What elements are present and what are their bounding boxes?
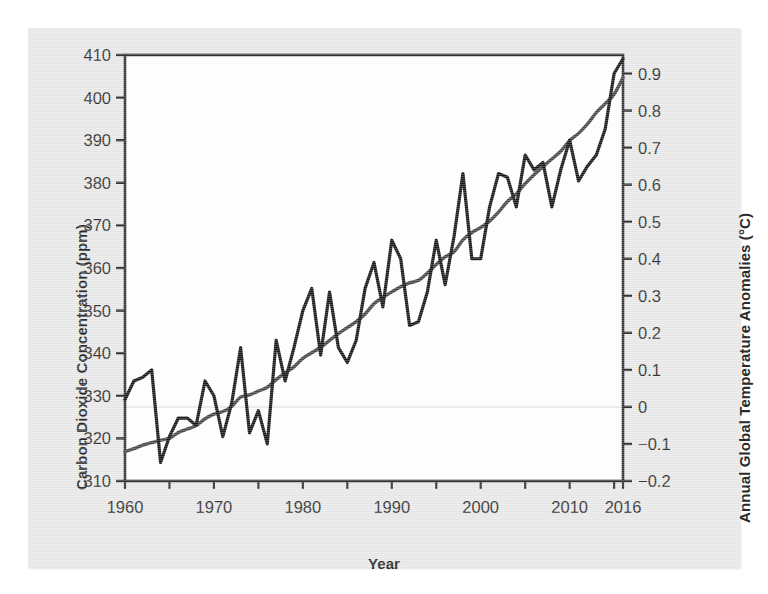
x-tick-label: 1980 <box>284 498 321 516</box>
y-tick-label-right: 0.1 <box>638 361 661 379</box>
x-tick-label: 2010 <box>551 498 588 516</box>
y-tick-label-right: 0.9 <box>638 65 661 83</box>
y-tick-label-right: −0.2 <box>638 472 671 490</box>
chart-figure: 310320330340350360370380390400410−0.2−0.… <box>28 28 740 568</box>
y-tick-label-right: 0.8 <box>638 102 661 120</box>
x-tick-label: 2016 <box>605 498 642 516</box>
x-tick-label: 1960 <box>107 498 144 516</box>
y-tick-label-right: 0 <box>638 398 647 416</box>
y-tick-label-left: 390 <box>83 131 111 149</box>
x-tick-label: 2000 <box>462 498 499 516</box>
y-tick-label-right: 0.6 <box>638 176 661 194</box>
y-tick-label-right: −0.1 <box>638 435 671 453</box>
y-tick-label-right: 0.5 <box>638 213 661 231</box>
y-tick-label-left: 410 <box>83 46 111 64</box>
y-tick-label-left: 400 <box>83 89 111 107</box>
x-axis-title: Year <box>28 555 740 572</box>
y-tick-label-right: 0.7 <box>638 139 661 157</box>
x-tick-label: 1990 <box>373 498 410 516</box>
y-tick-label-left: 380 <box>83 174 111 192</box>
y-tick-label-right: 0.3 <box>638 287 661 305</box>
chart-plot-area: 310320330340350360370380390400410−0.2−0.… <box>28 28 740 568</box>
x-tick-label: 1970 <box>196 498 233 516</box>
y-tick-label-right: 0.4 <box>638 250 661 268</box>
y-axis-left-title: Carbon Dioxide Concentration (ppm) <box>73 224 90 490</box>
y-axis-right-title: Annual Global Temperature Anomalies (°C) <box>736 213 753 523</box>
y-tick-label-right: 0.2 <box>638 324 661 342</box>
